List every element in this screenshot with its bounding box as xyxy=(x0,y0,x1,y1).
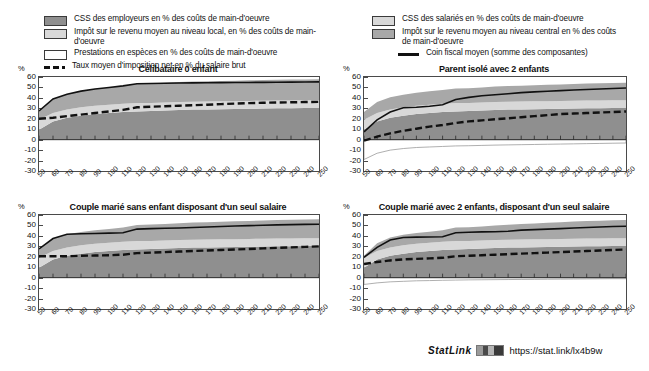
swatch-light-icon xyxy=(44,29,67,39)
y-axis-tick-label: 10 xyxy=(20,124,36,133)
legend-item: Coin fiscal moyen (somme des composantes… xyxy=(372,48,640,58)
chart-svg xyxy=(39,77,319,171)
chart-title: Couple marié avec 2 enfants, disposant d… xyxy=(363,202,625,212)
chart-panel-celibataire-0-enfant: Célibataire 0 enfant%6050403020100-10-20… xyxy=(0,64,324,196)
legend-item-label: CSS des employeurs en % des coûts de mai… xyxy=(74,14,269,24)
y-axis-tick-label: 60 xyxy=(20,210,36,219)
y-axis-tick-label: 20 xyxy=(20,251,36,260)
legend-right: CSS des salariés en % des coûts de main-… xyxy=(372,14,640,59)
plot-area xyxy=(38,76,320,172)
y-axis-tick-label: 40 xyxy=(345,92,361,101)
swatch-light-icon xyxy=(372,16,395,26)
y-axis-tick-label: 30 xyxy=(20,103,36,112)
y-axis-tick-label: -20 xyxy=(20,293,36,302)
y-axis-tick-label: 30 xyxy=(345,241,361,250)
y-axis-tick-label: 10 xyxy=(345,124,361,133)
legend-item: Impôt sur le revenu moyen au niveau cent… xyxy=(372,27,640,47)
swatch-dark-icon xyxy=(44,16,67,26)
y-axis-tick-label: 0 xyxy=(345,134,361,143)
legend-item-label: CSS des salariés en % des coûts de main-… xyxy=(402,14,584,24)
legend-item: CSS des employeurs en % des coûts de mai… xyxy=(44,14,344,26)
y-axis-tick-label: 20 xyxy=(20,113,36,122)
y-axis-tick-label: 40 xyxy=(20,92,36,101)
plot-area xyxy=(363,214,627,310)
y-axis-tick-label: 20 xyxy=(345,251,361,260)
chart-title: Célibataire 0 enfant xyxy=(38,64,318,74)
y-axis-tick-label: -20 xyxy=(345,155,361,164)
y-axis-tick-label: 60 xyxy=(345,210,361,219)
y-axis-tick-label: 50 xyxy=(20,220,36,229)
chart-panel-couple-marie-2-enfants: Couple marié avec 2 enfants, disposant d… xyxy=(330,202,649,336)
y-axis-tick-label: 30 xyxy=(20,241,36,250)
chart-panel-couple-marie-sans-enfant: Couple marié sans enfant disposant d'un … xyxy=(0,202,324,336)
y-axis-tick-label: 0 xyxy=(20,134,36,143)
statlink-label: StatLink xyxy=(428,345,471,356)
y-axis-tick-label: 20 xyxy=(345,113,361,122)
y-axis-tick-label: -10 xyxy=(20,145,36,154)
y-axis-tick-label: 40 xyxy=(20,230,36,239)
statlink[interactable]: StatLink https://stat.link/lx4b9w xyxy=(428,345,602,356)
chart-svg xyxy=(364,77,626,171)
legend-item-label: Prestations en espèces en % des coûts de… xyxy=(74,48,277,58)
legend-item-label: Impôt sur le revenu moyen au niveau loca… xyxy=(74,27,344,47)
y-axis-tick-label: 10 xyxy=(345,262,361,271)
y-axis-tick-label: -30 xyxy=(345,304,361,313)
barcode-icon xyxy=(476,345,504,356)
y-axis-tick-label: 30 xyxy=(345,103,361,112)
y-axis-tick-label: 0 xyxy=(345,272,361,281)
y-axis-tick-label: -10 xyxy=(345,145,361,154)
y-axis-tick-label: -30 xyxy=(20,304,36,313)
swatch-white-icon xyxy=(44,50,67,60)
y-axis-tick-label: -30 xyxy=(345,166,361,175)
y-axis-tick-label: -30 xyxy=(20,166,36,175)
chart-svg xyxy=(39,215,319,309)
legend-item: Impôt sur le revenu moyen au niveau loca… xyxy=(44,27,344,47)
y-axis-tick-label: 0 xyxy=(20,272,36,281)
benefit-area-series xyxy=(364,140,626,160)
benefit-area-series xyxy=(364,278,626,285)
legend-item-label: Impôt sur le revenu moyen au niveau cent… xyxy=(402,27,617,47)
y-axis-tick-label: 10 xyxy=(20,262,36,271)
y-axis-tick-label: 60 xyxy=(20,72,36,81)
chart-svg xyxy=(364,215,626,309)
y-axis-tick-label: -20 xyxy=(345,293,361,302)
legend-item: CSS des salariés en % des coûts de main-… xyxy=(372,14,640,26)
y-axis-tick-label: -20 xyxy=(20,155,36,164)
y-axis-tick-label: -10 xyxy=(345,283,361,292)
statlink-url[interactable]: https://stat.link/lx4b9w xyxy=(509,345,602,356)
y-axis-tick-label: 50 xyxy=(20,82,36,91)
chart-title: Couple marié sans enfant disposant d'un … xyxy=(38,202,318,212)
y-axis-tick-label: 60 xyxy=(345,72,361,81)
y-axis-tick-label: -10 xyxy=(20,283,36,292)
legend-item-label: Coin fiscal moyen (somme des composantes… xyxy=(426,48,588,58)
y-axis-tick-label: 50 xyxy=(345,220,361,229)
chart-title: Parent isolé avec 2 enfants xyxy=(363,64,625,74)
legend-item: Prestations en espèces en % des coûts de… xyxy=(44,48,344,60)
chart-panel-parent-isole-2-enfants: Parent isolé avec 2 enfants%605040302010… xyxy=(330,64,649,196)
solid-line-icon xyxy=(398,50,419,58)
y-axis-tick-label: 50 xyxy=(345,82,361,91)
plot-area xyxy=(38,214,320,310)
y-axis-tick-label: 40 xyxy=(345,230,361,239)
swatch-mid-icon xyxy=(372,29,395,39)
plot-area xyxy=(363,76,627,172)
